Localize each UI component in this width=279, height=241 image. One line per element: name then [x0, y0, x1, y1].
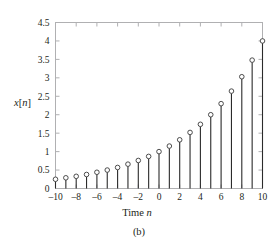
- data-point-marker: [105, 168, 110, 173]
- y-tick-label: 2: [45, 110, 50, 120]
- data-point-marker: [198, 122, 203, 127]
- data-point-marker: [84, 172, 89, 177]
- y-tick-label: 2.5: [38, 92, 50, 102]
- y-axis-label: x[n]: [13, 97, 31, 108]
- data-point-marker: [157, 149, 162, 154]
- data-point-marker: [146, 154, 151, 159]
- data-point-marker: [53, 177, 58, 182]
- x-tick-label: –10: [47, 192, 63, 202]
- data-point-marker: [167, 144, 172, 149]
- y-tick-label: 4.5: [38, 18, 50, 28]
- y-tick-label: 3: [45, 73, 50, 83]
- x-tick-label: 0: [157, 192, 162, 202]
- figure-panel: 00.511.522.533.544.5 –10–8–6–4–20246810 …: [0, 0, 279, 241]
- data-point-marker: [177, 138, 182, 143]
- y-tick-label: 1.5: [38, 129, 50, 139]
- data-point-marker: [95, 170, 100, 175]
- x-tick-label: 4: [198, 192, 203, 202]
- data-point-marker: [74, 174, 79, 179]
- y-axis-tick-labels: 00.511.522.533.544.5: [38, 18, 50, 194]
- data-point-marker: [208, 112, 213, 117]
- data-point-marker: [240, 74, 245, 79]
- x-tick-label: –6: [91, 192, 102, 202]
- y-tick-label: 1: [45, 147, 50, 157]
- data-point-marker: [260, 39, 265, 44]
- stem-chart: 00.511.522.533.544.5 –10–8–6–4–20246810 …: [0, 0, 279, 241]
- data-point-marker: [229, 89, 234, 94]
- data-point-marker: [250, 58, 255, 63]
- x-tick-label: –4: [112, 192, 123, 202]
- data-point-marker: [115, 165, 120, 170]
- right-axis-ticks: [259, 23, 263, 189]
- stem-series: [56, 43, 263, 188]
- y-tick-label: 3.5: [38, 55, 50, 65]
- data-point-marker: [188, 130, 193, 135]
- x-tick-label: –2: [133, 192, 144, 202]
- data-point-marker: [136, 158, 141, 163]
- x-tick-label: 10: [258, 192, 268, 202]
- data-point-marker: [126, 162, 131, 167]
- data-point-marker: [219, 101, 224, 106]
- y-tick-label: 4: [45, 36, 50, 46]
- x-axis-tick-labels: –10–8–6–4–20246810: [47, 192, 267, 202]
- x-tick-label: 2: [177, 192, 182, 202]
- x-tick-label: 8: [239, 192, 244, 202]
- x-tick-label: –8: [70, 192, 81, 202]
- figure-caption: (b): [133, 226, 146, 238]
- x-tick-label: 6: [219, 192, 224, 202]
- x-axis-label: Time n: [122, 207, 152, 218]
- data-point-marker: [64, 176, 69, 181]
- y-tick-label: 0.5: [38, 165, 50, 175]
- y-axis-ticks: [56, 23, 60, 189]
- top-axis-ticks: [56, 23, 263, 27]
